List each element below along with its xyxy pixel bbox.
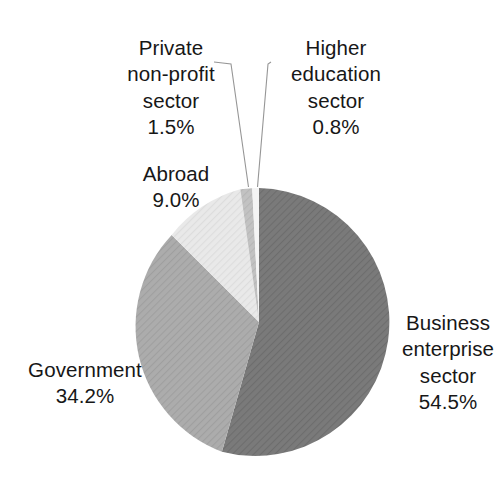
pie-label-value-government: 34.2% xyxy=(10,383,160,410)
pie-chart-figure: Private non-profit sector 1.5% Higher ed… xyxy=(0,0,501,481)
pie-label-text-business-enterprise-sector: Business enterprise sector xyxy=(402,311,494,387)
pie-label-business-enterprise-sector: Business enterprise sector 54.5% xyxy=(396,283,500,442)
pie-label-higher-education-sector: Higher education sector 0.8% xyxy=(266,8,406,167)
pie-label-value-higher-education-sector: 0.8% xyxy=(266,114,406,141)
pie-label-government: Government 34.2% xyxy=(10,330,160,436)
pie-label-text-government: Government xyxy=(28,358,142,381)
pie-label-text-higher-education-sector: Higher education sector xyxy=(291,36,381,112)
pie-label-text-private-non-profit-sector: Private non-profit sector xyxy=(127,36,215,112)
pie-label-text-abroad: Abroad xyxy=(143,162,210,185)
pie-label-value-abroad: 9.0% xyxy=(112,187,240,214)
pie-label-value-business-enterprise-sector: 54.5% xyxy=(396,389,500,416)
pie-label-abroad: Abroad 9.0% xyxy=(112,134,240,240)
